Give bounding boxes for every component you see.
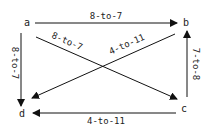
edge-label-c-d: 4-to-11 — [87, 116, 125, 126]
edge-label-b-d: 4-to-11 — [107, 32, 146, 57]
node-a: a — [24, 17, 30, 28]
graph-diagram: a b c d 8-to-7 8-to-7 8-to-7 4-to-11 7-t… — [0, 0, 210, 127]
edge-label-c-b: 7-to-8 — [191, 48, 201, 81]
node-d: d — [19, 108, 25, 119]
edge-label-a-b: 8-to-7 — [90, 11, 123, 21]
edge-label-a-c: 8-to-7 — [50, 30, 84, 52]
edge-label-a-d: 8-to-7 — [10, 47, 20, 80]
node-b: b — [183, 17, 189, 28]
edge-a-c — [36, 37, 177, 99]
node-c: c — [181, 103, 187, 114]
